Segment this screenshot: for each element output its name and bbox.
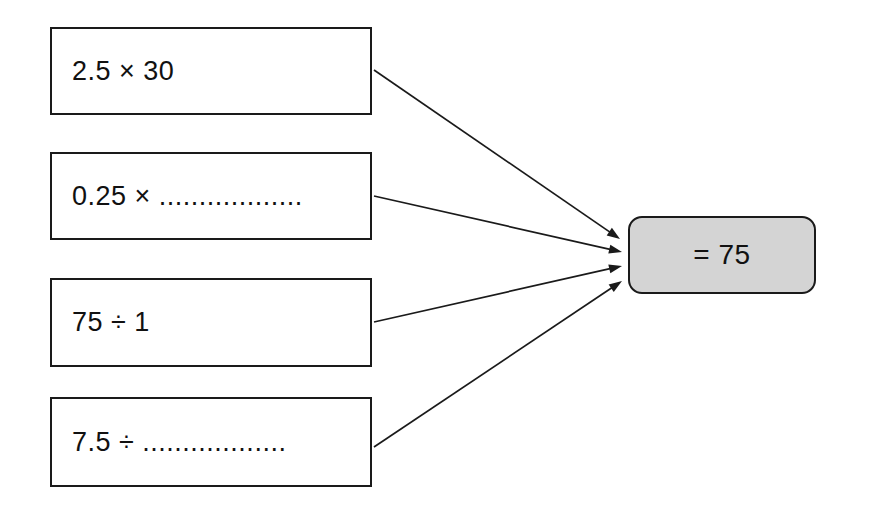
arrow-3 bbox=[374, 264, 622, 322]
arrow-1-head bbox=[607, 228, 620, 239]
expression-box-1[interactable]: 2.5 × 30 bbox=[50, 27, 372, 115]
expression-text-2: 0.25 × .................. bbox=[52, 183, 303, 210]
result-box[interactable]: = 75 bbox=[628, 216, 816, 294]
expression-box-4[interactable]: 7.5 ÷ .................. bbox=[50, 397, 372, 487]
expression-text-3: 75 ÷ 1 bbox=[52, 309, 150, 336]
expression-text-1: 2.5 × 30 bbox=[52, 58, 174, 85]
diagram-canvas: 2.5 × 30 0.25 × .................. 75 ÷ … bbox=[0, 0, 882, 516]
expression-box-3[interactable]: 75 ÷ 1 bbox=[50, 278, 372, 367]
arrow-4-line bbox=[374, 287, 614, 447]
expression-text-4: 7.5 ÷ .................. bbox=[52, 429, 286, 456]
arrow-2 bbox=[374, 196, 622, 254]
arrow-3-line bbox=[374, 268, 612, 322]
arrow-2-line bbox=[374, 196, 612, 250]
expression-box-2[interactable]: 0.25 × .................. bbox=[50, 152, 372, 240]
arrow-1-line bbox=[374, 70, 612, 233]
arrow-3-head bbox=[608, 264, 622, 273]
arrow-1 bbox=[374, 70, 620, 239]
arrow-4 bbox=[374, 281, 622, 447]
arrow-2-head bbox=[608, 245, 622, 254]
result-text: = 75 bbox=[693, 241, 750, 269]
arrow-4-head bbox=[609, 281, 622, 292]
